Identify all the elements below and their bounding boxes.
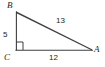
- side-length-label-ba: 13: [56, 17, 65, 25]
- geometry-figure: B C A 5 13 12: [0, 0, 105, 67]
- side-length-label-ca: 12: [49, 54, 58, 62]
- right-angle-marker-icon: [16, 42, 23, 50]
- side-length-label-bc: 5: [3, 31, 7, 39]
- vertex-label-b: B: [7, 1, 13, 10]
- vertex-label-c: C: [4, 53, 10, 62]
- vertex-label-a: A: [94, 45, 100, 54]
- hypotenuse-segment-ba: [16, 11, 92, 50]
